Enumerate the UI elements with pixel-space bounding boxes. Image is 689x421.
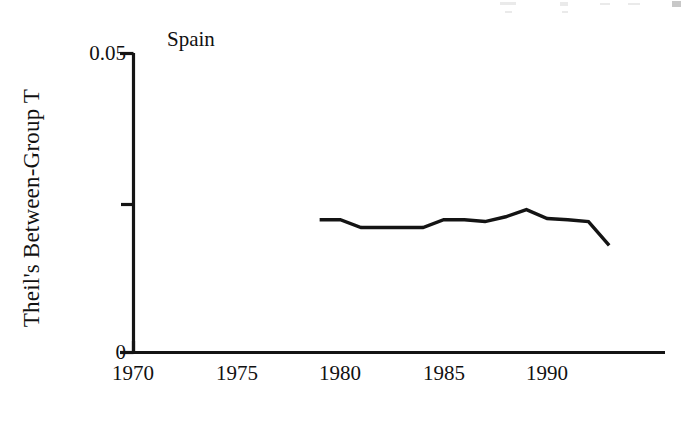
data-series-line-spain — [320, 210, 610, 246]
plot-area — [0, 0, 689, 421]
chart-figure: Theil's Between-Group T Spain 0.05 0 197… — [0, 0, 689, 421]
